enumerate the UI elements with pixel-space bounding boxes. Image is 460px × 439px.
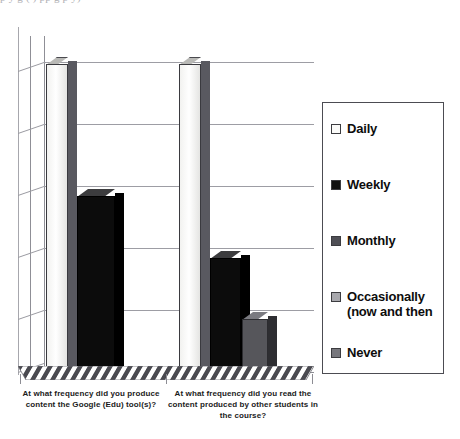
bar-weekly-group-2[interactable] <box>210 251 241 375</box>
plot-area <box>18 27 314 375</box>
y-axis-tick <box>18 186 44 196</box>
y-axis-tick <box>18 124 44 134</box>
bar-weekly-group-1[interactable] <box>77 189 115 375</box>
bar-front-face <box>46 64 68 375</box>
legend-swatch-never-icon <box>331 348 341 358</box>
bar-daily-group-1[interactable] <box>46 57 68 375</box>
y-axis-mid-spine <box>30 36 31 375</box>
legend-label-monthly: Monthly <box>347 233 395 248</box>
legend-swatch-occasionally-icon <box>331 292 341 302</box>
category-axis-tick <box>20 374 21 384</box>
y-axis-tick <box>18 310 44 320</box>
y-axis-back-spine <box>18 27 19 375</box>
category-label-0: At what frequency did you produce conten… <box>16 388 166 410</box>
legend-item-occasionally[interactable]: Occasionally(now and then <box>331 289 433 319</box>
legend-label-occasionally: Occasionally(now and then <box>347 289 433 319</box>
bar-side-face <box>115 193 124 379</box>
legend-label-never: Never <box>347 345 382 360</box>
category-label-1: At what frequency did you read the conte… <box>168 388 318 421</box>
legend-label-occasionally-line2: (now and then <box>347 304 433 319</box>
legend-label-daily: Daily <box>347 121 377 136</box>
legend-item-never[interactable]: Never <box>331 345 382 360</box>
bar-side-face <box>68 61 77 379</box>
y-axis-tick <box>18 62 44 72</box>
legend-item-weekly[interactable]: Weekly <box>331 177 390 192</box>
legend-label-occasionally-line1: Occasionally <box>347 289 425 304</box>
legend-item-monthly[interactable]: Monthly <box>331 233 395 248</box>
bar-front-face <box>210 258 241 375</box>
legend-item-daily[interactable]: Daily <box>331 121 377 136</box>
legend-swatch-daily-icon <box>331 124 341 134</box>
y-axis-tick <box>18 248 44 258</box>
bar-front-face <box>179 64 201 375</box>
bar-side-face <box>201 61 210 379</box>
bar-daily-group-2[interactable] <box>179 57 201 375</box>
bar-chart-figure: At what frequency did you produce conten… <box>0 0 460 439</box>
legend-swatch-weekly-icon <box>331 180 341 190</box>
y-axis-front-spine <box>44 36 45 375</box>
category-axis-tick <box>312 374 313 384</box>
legend-label-weekly: Weekly <box>347 177 390 192</box>
chart-legend: Daily Weekly Monthly Occasionally(now an… <box>322 102 444 374</box>
legend-swatch-monthly-icon <box>331 236 341 246</box>
category-axis-tick <box>166 374 167 384</box>
bar-front-face <box>77 196 115 375</box>
